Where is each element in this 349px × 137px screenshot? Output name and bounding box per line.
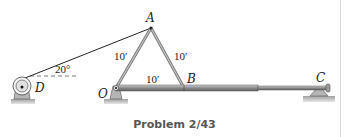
- cable-da: [20, 28, 151, 80]
- problem-figure: A B C D O 10′ 10′ 10′ 20°: [0, 0, 349, 137]
- joint-a: [150, 27, 153, 30]
- label-a: A: [145, 11, 155, 25]
- rod-thin: [258, 86, 328, 90]
- dimension-ab: 10′: [174, 50, 187, 62]
- winch-d: [11, 77, 35, 104]
- label-o: O: [98, 87, 108, 101]
- dimension-oa: 10′: [114, 50, 127, 62]
- rod-end-cap: [326, 84, 330, 92]
- page-divider: [340, 0, 341, 137]
- figure-caption: Problem 2/43: [0, 118, 349, 131]
- label-b: B: [186, 72, 196, 86]
- angle-label: 20°: [55, 63, 70, 75]
- label-d: D: [34, 81, 45, 95]
- label-c: C: [316, 71, 325, 85]
- dimension-ob: 10′: [146, 73, 159, 85]
